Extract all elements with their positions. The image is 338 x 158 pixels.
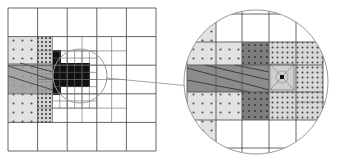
magnification-connector-line <box>106 78 190 86</box>
magnified-inset-panel <box>180 8 335 158</box>
mesh-refinement-figure <box>0 0 338 158</box>
coarse-dotted-region <box>200 120 216 142</box>
left-mesh-panel <box>8 8 156 151</box>
refined-focus-cell <box>270 64 294 90</box>
